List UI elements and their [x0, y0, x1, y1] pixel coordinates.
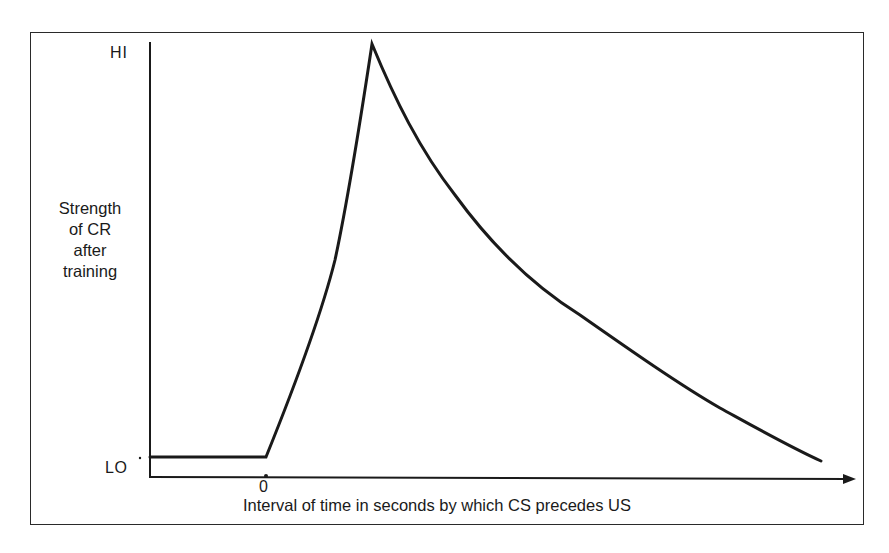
y-axis-label-line-1: Strength: [40, 198, 140, 219]
x-tick-zero: 0: [259, 478, 268, 496]
cr-strength-curve: [150, 44, 821, 461]
x-axis-label: Interval of time in seconds by which CS …: [243, 496, 631, 515]
y-tick-hi: HI: [110, 44, 128, 62]
x-axis: [149, 477, 848, 479]
y-tick-lo: LO: [105, 459, 127, 477]
y-axis-label-line-3: after: [40, 240, 140, 261]
y-axis-label-line-4: training: [40, 261, 140, 282]
lo-marker: [139, 457, 141, 459]
x-axis-arrowhead-icon: [843, 474, 856, 484]
y-axis-label-line-2: of CR: [40, 219, 140, 240]
y-axis-label: Strength of CR after training: [40, 198, 140, 282]
